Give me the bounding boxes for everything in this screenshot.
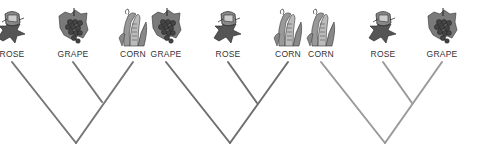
- branch-corn: [230, 62, 288, 143]
- branch-corn: [76, 62, 133, 143]
- branch-corn: [321, 62, 385, 143]
- taxon-label: GRAPE: [417, 49, 467, 59]
- cladogram-3: [321, 62, 442, 143]
- cladogram-figure: ROSE GRAPE CORN GRAPE ROSE: [0, 0, 487, 150]
- grape-icon: [425, 8, 459, 48]
- cladogram-2: [166, 62, 288, 143]
- taxon-label: GRAPE: [141, 49, 191, 59]
- branch-grape: [385, 62, 442, 143]
- taxon-label: ROSE: [358, 49, 408, 59]
- cladogram-1: [12, 62, 133, 143]
- taxon-label: ROSE: [203, 49, 253, 59]
- branch-rose: [383, 62, 412, 103]
- taxon-rose: ROSE: [0, 8, 37, 59]
- taxon-label: ROSE: [0, 49, 37, 59]
- branch-grape: [73, 62, 102, 102]
- rose-icon: [211, 8, 245, 48]
- branch-rose: [12, 62, 76, 143]
- branch-rose: [228, 62, 257, 103]
- taxon-grape: GRAPE: [417, 8, 467, 59]
- taxon-rose: ROSE: [203, 8, 253, 59]
- branch-grape: [166, 62, 230, 143]
- corn-icon: [304, 8, 338, 48]
- taxon-corn: CORN: [296, 8, 346, 59]
- taxon-grape: GRAPE: [48, 8, 98, 59]
- taxon-grape: GRAPE: [141, 8, 191, 59]
- taxon-label: CORN: [296, 49, 346, 59]
- rose-icon: [366, 8, 400, 48]
- grape-icon: [149, 8, 183, 48]
- taxon-label: GRAPE: [48, 49, 98, 59]
- taxon-rose: ROSE: [358, 8, 408, 59]
- rose-icon: [0, 8, 29, 48]
- grape-icon: [56, 8, 90, 48]
